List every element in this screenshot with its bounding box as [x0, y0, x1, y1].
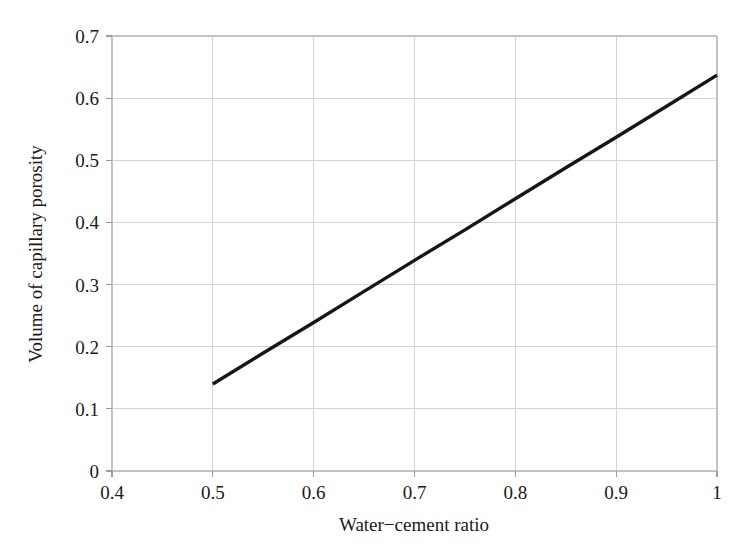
y-tick-label: 0.3 [75, 275, 99, 296]
y-tick-label: 0 [90, 461, 100, 482]
chart-figure: 00.10.20.30.40.50.60.7 0.40.50.60.70.80.… [0, 0, 750, 557]
capillary-porosity-line-chart: 00.10.20.30.40.50.60.7 0.40.50.60.70.80.… [0, 0, 750, 557]
y-tick-label: 0.7 [75, 26, 99, 47]
x-tick-label: 0.6 [302, 482, 326, 503]
x-tick-label: 0.4 [100, 482, 124, 503]
x-tick-label: 0.5 [201, 482, 225, 503]
y-tick-label: 0.2 [75, 337, 99, 358]
y-axis-title: Volume of capillary porosity [25, 145, 46, 363]
y-tick-label: 0.6 [75, 88, 99, 109]
y-tick-label: 0.5 [75, 150, 99, 171]
x-axis-title: Water−cement ratio [339, 514, 489, 535]
x-tick-label: 1 [712, 482, 722, 503]
x-tick-label: 0.8 [503, 482, 527, 503]
y-tick-label: 0.4 [75, 212, 99, 233]
y-tick-label: 0.1 [75, 399, 99, 420]
x-tick-label: 0.7 [403, 482, 427, 503]
x-tick-label: 0.9 [604, 482, 628, 503]
